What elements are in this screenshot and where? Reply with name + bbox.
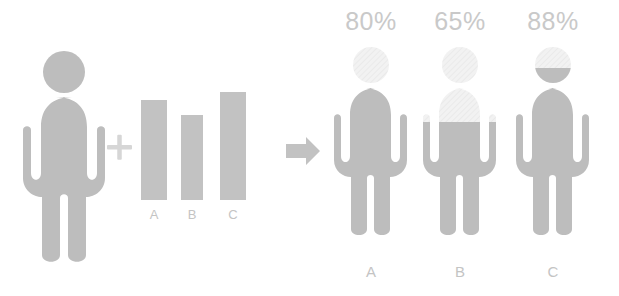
arrow-right-icon — [286, 137, 320, 165]
bar-label-a: A — [150, 207, 159, 222]
result-figure-a — [334, 47, 407, 235]
result-figure-b — [423, 47, 496, 235]
bar-label-b: B — [188, 207, 197, 222]
figure-b-head-unfilled — [442, 47, 478, 83]
percent-label-c: 88% — [527, 7, 579, 35]
infographic-root: A B C — [0, 0, 619, 296]
source-person-body — [23, 97, 105, 262]
figure-c-body-filled — [516, 88, 589, 235]
percent-label-b: 65% — [434, 7, 486, 35]
figure-label-b: B — [455, 263, 465, 280]
plus-symbol — [107, 135, 132, 160]
figure-a-body-filled — [334, 88, 407, 235]
figure-a-head-unfilled — [353, 47, 389, 83]
bar-c — [220, 92, 246, 200]
infographic-canvas: A B C — [0, 0, 619, 296]
bar-label-c: C — [228, 207, 237, 222]
source-person — [23, 51, 105, 262]
percent-label-a: 80% — [345, 7, 397, 35]
plus-vertical — [117, 135, 122, 160]
figure-label-c: C — [548, 263, 559, 280]
figure-label-a: A — [366, 263, 376, 280]
result-figure-c — [516, 47, 589, 235]
arrow-shape — [286, 137, 320, 165]
bar-a — [141, 100, 167, 200]
bar-b — [181, 115, 203, 200]
source-person-head — [43, 51, 85, 93]
bar-chart: A B C — [141, 92, 246, 222]
